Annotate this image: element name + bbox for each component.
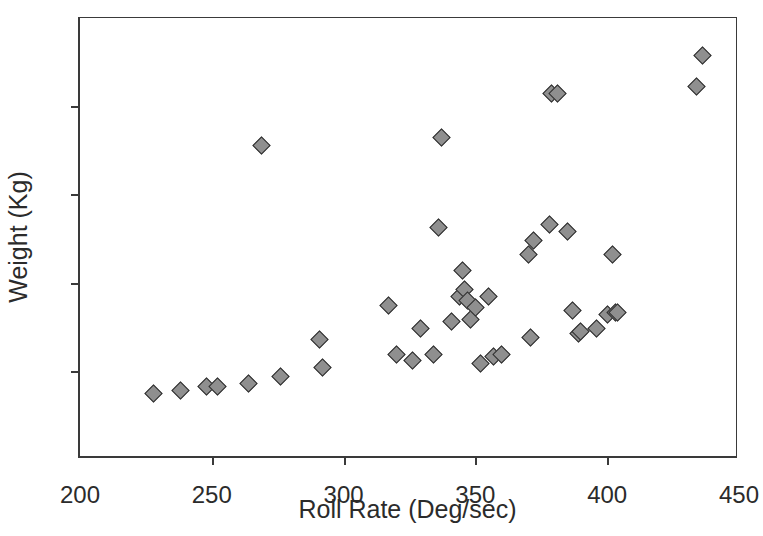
x-axis-tick — [607, 456, 609, 465]
data-point — [688, 78, 706, 96]
data-point — [424, 346, 442, 364]
data-point — [311, 330, 329, 348]
data-point — [432, 129, 450, 147]
y-axis-title: Weight (Kg) — [1, 17, 35, 458]
data-point — [208, 377, 226, 395]
plot-frame: 100150200250300350200250300350400450 — [78, 17, 737, 458]
plot-area — [80, 18, 736, 456]
data-point — [240, 374, 258, 392]
data-point — [271, 367, 289, 385]
data-point — [171, 381, 189, 399]
data-point — [587, 319, 605, 337]
data-point — [603, 245, 621, 263]
y-axis-tick — [71, 106, 80, 108]
data-point — [442, 312, 460, 330]
data-point — [693, 46, 711, 64]
y-axis-tick — [71, 283, 80, 285]
data-point — [387, 346, 405, 364]
data-point — [411, 319, 429, 337]
data-point — [145, 385, 163, 403]
data-point — [453, 261, 471, 279]
data-point — [558, 222, 576, 240]
y-axis-tick — [71, 194, 80, 196]
data-point — [479, 288, 497, 306]
data-point — [253, 136, 271, 154]
data-point — [379, 296, 397, 314]
x-axis-title: Roll Rate (Deg/sec) — [78, 495, 737, 524]
data-point — [540, 215, 558, 233]
data-point — [522, 328, 540, 346]
data-point — [429, 219, 447, 237]
x-axis-tick — [344, 456, 346, 465]
data-point — [313, 358, 331, 376]
x-axis-tick — [212, 456, 214, 465]
x-axis-tick — [475, 456, 477, 465]
y-axis-tick — [71, 371, 80, 373]
data-point — [564, 302, 582, 320]
